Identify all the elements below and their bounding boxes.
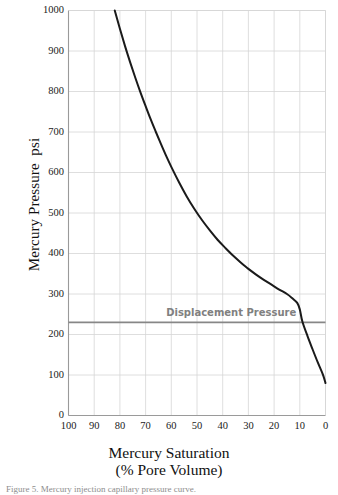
figure-caption: Figure 5. Mercury injection capillary pr… (6, 484, 336, 494)
y-axis-title: Mercury Pressure psi (26, 85, 43, 325)
capillary-pressure-figure: Displacement Pressure 010020030040050060… (0, 0, 338, 495)
x-tick-label: 0 (311, 420, 338, 431)
x-axis-title-line1: Mercury Saturation (109, 444, 230, 461)
x-axis-title: Mercury Saturation (% Pore Volume) (0, 444, 338, 478)
x-axis-title-line2: (% Pore Volume) (0, 461, 338, 478)
x-axis-tick-labels: 1009080706050403020100 (0, 0, 338, 495)
